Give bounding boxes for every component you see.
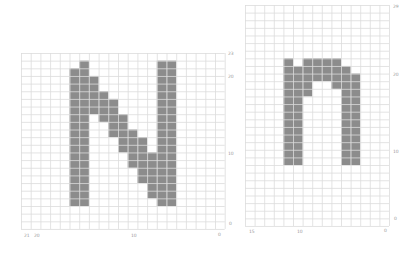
x-axis-label: 10 (131, 234, 137, 239)
filled-cell-column (331, 58, 341, 88)
x-axis-label: 0 (218, 233, 221, 238)
grid-panel-right (245, 5, 389, 226)
y-axis-label: 10 (228, 152, 234, 157)
filled-cell-column (128, 130, 138, 168)
filled-cell-column (351, 74, 361, 165)
pixel-grid-left (21, 53, 226, 230)
x-axis-label: 10 (297, 230, 303, 235)
pixel-grid-right (245, 5, 390, 227)
y-axis-label: 10 (393, 150, 399, 155)
filled-cell-column (108, 99, 118, 137)
y-axis-label: 20 (393, 73, 399, 78)
filled-cell-column (167, 61, 177, 206)
y-axis-label: 23 (228, 52, 234, 57)
grid-panel-left (21, 53, 225, 229)
x-axis-label: 15 (249, 230, 255, 235)
y-axis-label: 0 (229, 222, 232, 227)
filled-cell-column (303, 58, 313, 96)
filled-cell-column (157, 61, 167, 206)
filled-cell-column (70, 68, 80, 206)
filled-cell-column (79, 61, 89, 206)
x-axis-label: 20 (34, 234, 40, 239)
y-axis-label: 29 (393, 5, 399, 10)
x-axis-label: 0 (384, 229, 387, 234)
filled-cell-column (89, 76, 99, 114)
x-axis-label: 21 (24, 234, 30, 239)
y-axis-label: 20 (228, 75, 234, 80)
filled-cell-column (99, 91, 109, 122)
y-axis-label: 0 (394, 217, 397, 222)
filled-cell-column (312, 58, 322, 81)
filled-cell-column (118, 114, 128, 152)
filled-cell-column (322, 58, 332, 81)
